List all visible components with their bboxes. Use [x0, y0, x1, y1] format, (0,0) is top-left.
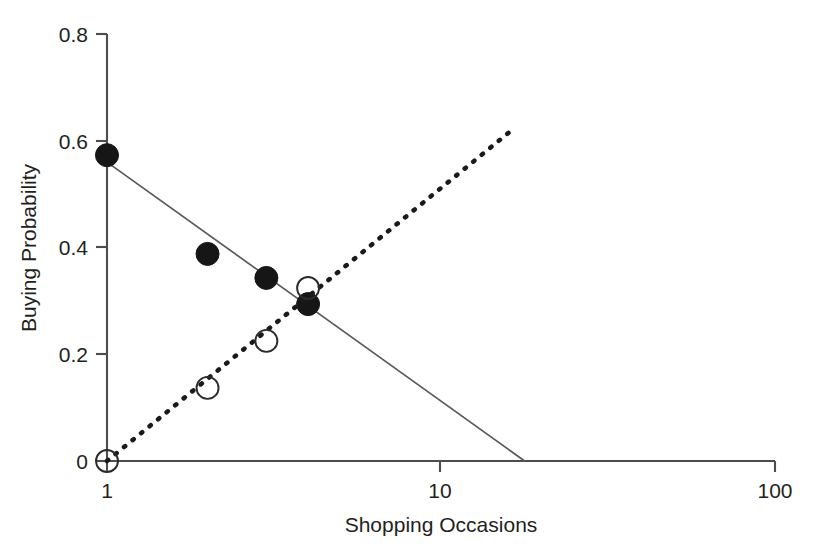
x-tick-label-0: 1 [101, 479, 113, 502]
x-axis-ticks [107, 461, 775, 472]
data-point-open-4 [297, 277, 319, 299]
y-tick-label-3: 0.6 [59, 130, 88, 153]
y-tick-label-1: 0.2 [59, 343, 88, 366]
series-rising [96, 128, 515, 472]
chart-figure: 0 0.2 0.4 0.6 0.8 1 10 100 Shopping Occa… [0, 0, 814, 553]
x-tick-label-1: 10 [428, 479, 451, 502]
data-point-open-1 [96, 450, 118, 472]
scatter-plot: 0 0.2 0.4 0.6 0.8 1 10 100 Shopping Occa… [0, 0, 814, 553]
y-tick-label-2: 0.4 [59, 236, 89, 259]
x-axis-title: Shopping Occasions [345, 513, 538, 536]
y-axis-ticks [96, 34, 107, 461]
y-axis-tick-labels: 0 0.2 0.4 0.6 0.8 [59, 23, 89, 473]
data-point-open-3 [255, 330, 277, 352]
x-axis-tick-labels: 1 10 100 [101, 479, 792, 502]
y-tick-label-4: 0.8 [59, 23, 88, 46]
y-tick-label-0: 0 [76, 450, 88, 473]
series-declining [96, 144, 525, 461]
data-point-filled-1 [96, 144, 119, 167]
rising-markers [96, 277, 319, 472]
data-point-filled-3 [255, 266, 278, 289]
x-tick-label-2: 100 [757, 479, 792, 502]
y-axis-title: Buying Probability [17, 163, 40, 332]
data-point-open-2 [197, 377, 219, 399]
data-point-filled-2 [196, 242, 219, 265]
